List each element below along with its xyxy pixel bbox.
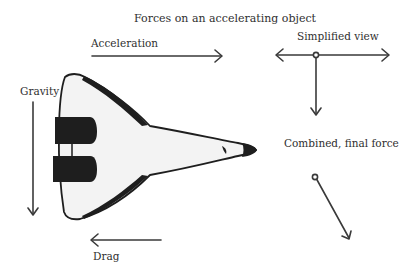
- gravity-arrow-icon: [28, 102, 38, 215]
- simplified-view-arrows-icon: [276, 49, 389, 115]
- combined-force-arrow-icon: [312, 174, 351, 239]
- drag-arrow-icon: [91, 234, 161, 246]
- space-shuttle-icon: [53, 74, 257, 219]
- acceleration-arrow-icon: [92, 50, 222, 62]
- force-diagram: [0, 0, 407, 274]
